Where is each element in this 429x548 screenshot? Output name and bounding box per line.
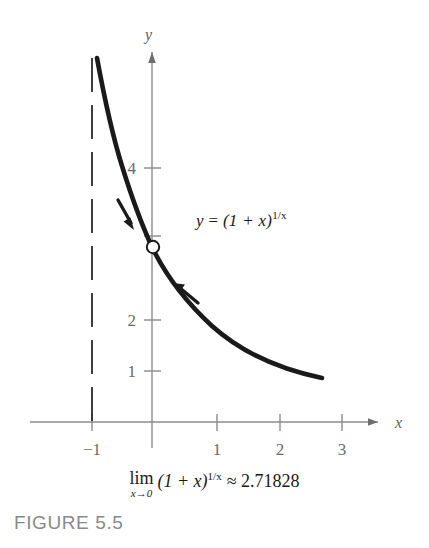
curve-label-base: (1 + x) xyxy=(223,211,272,230)
curve-equation-label: y = (1 + x)1/x xyxy=(196,209,286,231)
limit-body-exponent: 1/x xyxy=(208,470,222,482)
open-circle-marker xyxy=(147,241,159,253)
y-tick-label-1: 1 xyxy=(128,362,137,381)
limit-relation: ≈ xyxy=(227,471,237,491)
limit-value: 2.71828 xyxy=(241,471,300,491)
figure-container: x y −1 1 2 3 1 2 4 xyxy=(0,0,429,548)
curve-label-lhs: y xyxy=(196,211,204,230)
curve-label-equals: = xyxy=(208,211,218,230)
left-approach-arrow xyxy=(118,200,134,230)
x-axis-arrowhead xyxy=(368,418,378,426)
limit-operator-stack: lim x→0 xyxy=(129,469,153,499)
limit-body: (1 + x)1/x≈ 2.71828 xyxy=(157,470,299,492)
y-tick-label-2: 2 xyxy=(128,311,137,330)
x-tick-label-2: 2 xyxy=(276,440,285,459)
limit-subscript: x→0 xyxy=(129,488,153,499)
x-axis-label: x xyxy=(394,414,402,431)
x-tick-label-1: 1 xyxy=(213,440,222,459)
y-axis-label: y xyxy=(143,26,153,44)
figure-caption: FIGURE 5.5 xyxy=(14,512,123,534)
limit-expression: lim x→0 (1 + x)1/x≈ 2.71828 xyxy=(0,466,429,496)
x-tick-label-3: 3 xyxy=(338,440,347,459)
limit-operator: lim xyxy=(129,469,153,487)
limit-body-base: (1 + x) xyxy=(157,471,207,491)
curve-label-exponent: 1/x xyxy=(272,209,286,221)
x-tick-label-minus1: −1 xyxy=(83,440,101,459)
y-tick-label-4: 4 xyxy=(128,159,137,178)
y-axis-arrowhead xyxy=(148,52,156,63)
